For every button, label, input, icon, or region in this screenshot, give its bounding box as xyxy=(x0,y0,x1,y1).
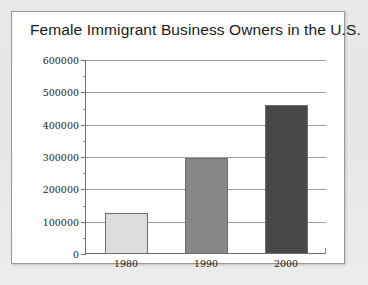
y-axis-minor-tick xyxy=(83,173,86,174)
y-axis-tick-label: 400000 xyxy=(43,119,79,130)
y-axis-major-tick xyxy=(81,60,86,61)
x-axis-end-tick xyxy=(325,248,326,254)
y-axis-minor-tick xyxy=(83,109,86,110)
y-axis-tick-label: 300000 xyxy=(43,152,79,163)
y-axis-tick-label: 600000 xyxy=(43,55,79,66)
x-axis-tick-label: 1990 xyxy=(194,258,218,269)
y-axis-major-tick xyxy=(81,157,86,158)
x-axis-tick-label: 1980 xyxy=(114,258,138,269)
y-axis-tick-label: 200000 xyxy=(43,184,79,195)
y-axis-major-tick xyxy=(81,189,86,190)
gridline xyxy=(86,60,326,61)
chart-title: Female Immigrant Business Owners in the … xyxy=(30,21,361,39)
y-axis-major-tick xyxy=(81,222,86,223)
y-axis-minor-tick xyxy=(83,76,86,77)
y-axis-major-tick xyxy=(81,125,86,126)
bar-1980 xyxy=(105,213,148,254)
bar-2000 xyxy=(265,105,308,254)
page-background: Female Immigrant Business Owners in the … xyxy=(0,0,368,285)
y-axis-tick-label: 0 xyxy=(73,249,79,260)
chart-card: Female Immigrant Business Owners in the … xyxy=(11,11,345,264)
y-axis-minor-tick xyxy=(83,141,86,142)
y-axis-major-tick xyxy=(81,92,86,93)
y-axis-tick-label: 500000 xyxy=(43,87,79,98)
y-axis-minor-tick xyxy=(83,238,86,239)
y-axis-minor-tick xyxy=(83,206,86,207)
y-axis-major-tick xyxy=(81,254,86,255)
plot-area: 6000005000004000003000002000001000000 19… xyxy=(86,60,326,254)
gridline xyxy=(86,92,326,93)
y-axis-tick-label: 100000 xyxy=(43,216,79,227)
bar-1990 xyxy=(185,158,228,254)
x-axis-tick-label: 2000 xyxy=(274,258,298,269)
